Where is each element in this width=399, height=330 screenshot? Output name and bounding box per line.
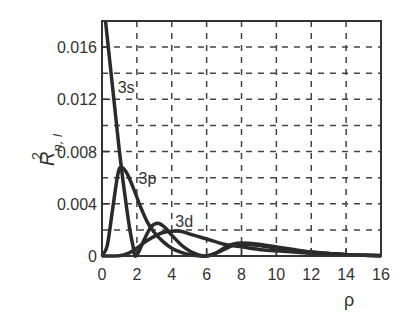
x-axis-title: ρ: [344, 290, 354, 310]
x-tick-label: 8: [237, 266, 246, 283]
x-tick-label: 16: [372, 266, 390, 283]
curve-label-3s: 3s: [118, 79, 135, 96]
x-tick-label: 6: [202, 266, 211, 283]
y-tick-label: 0.016: [57, 39, 97, 56]
curves: [102, 21, 381, 256]
curve-label-3p: 3p: [139, 170, 157, 187]
x-tick-label: 4: [167, 266, 176, 283]
plot-frame: [102, 21, 381, 256]
x-tick-label: 14: [337, 266, 355, 283]
x-tick-label: 10: [267, 266, 285, 283]
y-axis-title: Rn, l 2: [29, 133, 65, 166]
x-axis-ticks: 0246810121416: [98, 248, 390, 283]
x-tick-label: 12: [302, 266, 320, 283]
radial-density-chart: 00.0040.0080.0120.016 0246810121416 3s3p…: [0, 0, 399, 330]
y-tick-label: 0.012: [57, 91, 97, 108]
curve-labels: 3s3p3d: [118, 79, 193, 230]
curve-label-3d: 3d: [175, 213, 193, 230]
x-tick-label: 0: [98, 266, 107, 283]
y-axis-title-sup: 2: [29, 152, 45, 160]
y-axis-title-sub: n, l: [50, 133, 65, 151]
y-tick-label: 0.004: [57, 196, 97, 213]
y-tick-label: 0: [88, 248, 97, 265]
x-tick-label: 2: [132, 266, 141, 283]
grid-lines: [102, 21, 381, 256]
